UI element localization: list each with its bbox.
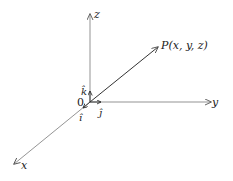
k-hat-label: k̂ — [81, 85, 87, 97]
point-label: P(x, y, z) — [160, 39, 208, 52]
origin-label: 0 — [77, 96, 84, 109]
i-hat-label: î — [79, 112, 83, 123]
unit-vector-i — [83, 102, 90, 108]
coordinate-diagram: z y x P(x, y, z) 0 k̂ ĵ î — [0, 0, 233, 181]
y-axis-label: y — [211, 96, 219, 109]
position-vector — [90, 47, 158, 102]
z-axis-label: z — [93, 8, 100, 21]
x-axis-label: x — [21, 159, 28, 172]
diagram-svg: z y x P(x, y, z) 0 k̂ ĵ î — [0, 0, 233, 181]
j-hat-label: ĵ — [97, 107, 103, 118]
